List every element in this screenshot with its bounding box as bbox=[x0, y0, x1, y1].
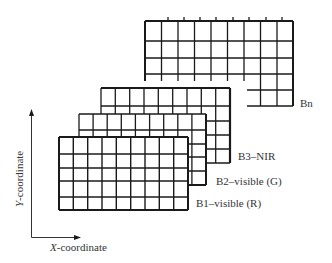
y-axis-label-var: Y bbox=[13, 201, 25, 207]
y-axis-label-rest: -coordinate bbox=[13, 151, 25, 201]
x-axis-label: X-coordinate bbox=[50, 242, 107, 253]
x-axis-arrow-icon bbox=[74, 235, 81, 240]
x-axis-label-rest: -coordinate bbox=[57, 241, 107, 253]
label-b1: B1–visible (R) bbox=[196, 198, 261, 209]
label-bn: Bn bbox=[300, 98, 313, 109]
y-axis-arrow-icon bbox=[29, 109, 34, 116]
label-b2: B2–visible (G) bbox=[216, 176, 282, 187]
band-stack-diagram bbox=[0, 0, 332, 263]
x-axis-label-var: X bbox=[50, 241, 57, 253]
label-b3: B3–NIR bbox=[238, 151, 275, 162]
grid-b1 bbox=[59, 137, 188, 210]
y-axis-label: Y-coordinate bbox=[14, 151, 25, 207]
